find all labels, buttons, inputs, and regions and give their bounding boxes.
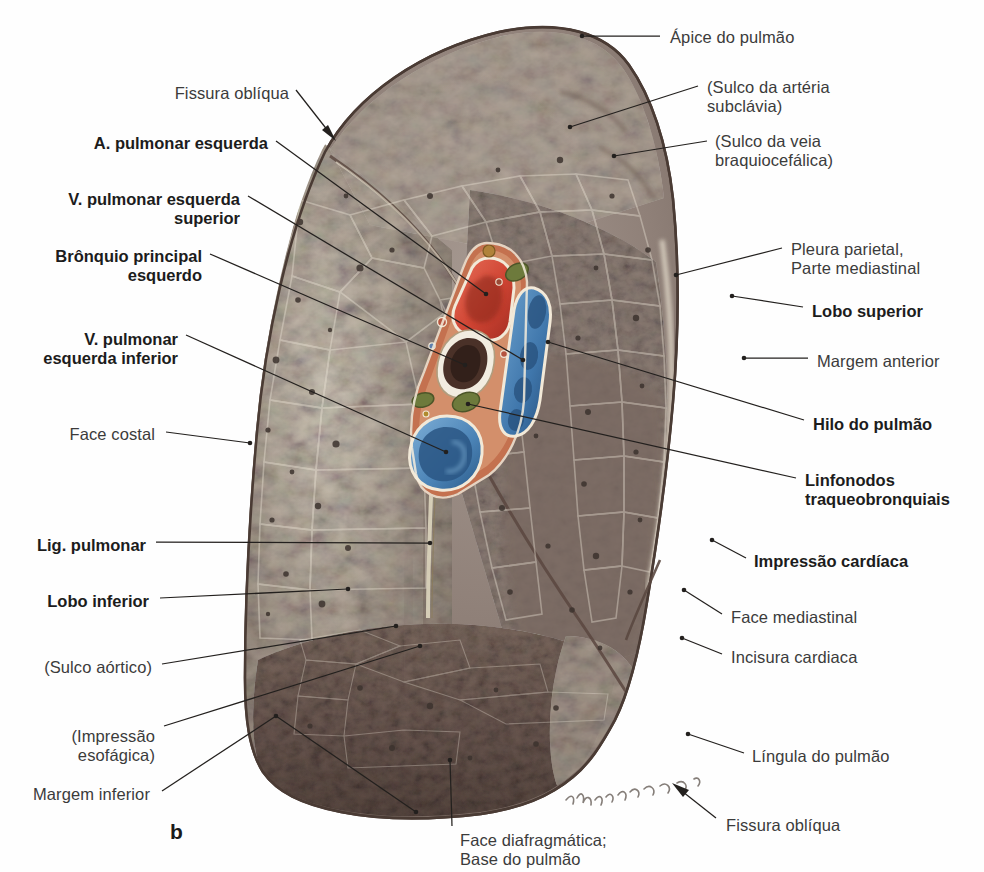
label-lig-pulmonar: Lig. pulmonar <box>0 536 146 555</box>
label-bronquio-principal-esquerdo: Brônquio principalesquerdo <box>0 247 202 286</box>
label-margem-inferior: Margem inferior <box>0 785 150 804</box>
lymph-node-apex <box>483 245 495 257</box>
label-fissura-obliqua-inf: Fissura oblíqua <box>726 816 840 835</box>
label-line: Linfonodos <box>805 471 950 490</box>
label-face-diafragmatica: Face diafragmática;Base do pulmão <box>460 831 607 870</box>
label-line: (Sulco da artéria <box>707 78 830 97</box>
label-line: Lobo inferior <box>0 592 149 611</box>
label-line: esquerda inferior <box>0 349 178 368</box>
artist-signature <box>566 778 700 805</box>
label-line: Incisura cardiaca <box>731 648 857 667</box>
label-line: (Sulco da veia <box>715 132 833 151</box>
label-lobo-superior: Lobo superior <box>812 302 923 321</box>
label-line: Face diafragmática; <box>460 831 607 850</box>
label-line: Face costal <box>0 425 155 444</box>
label-line: (Impressão <box>0 727 155 746</box>
label-lobo-inferior: Lobo inferior <box>0 592 149 611</box>
label-hilo-do-pulmao: Hilo do pulmão <box>813 415 932 434</box>
label-line: traqueobronquiais <box>805 490 950 509</box>
label-sulco-aortico: (Sulco aórtico) <box>0 658 152 677</box>
label-line: esofágica) <box>0 746 155 765</box>
label-line: Fissura oblíqua <box>0 84 289 103</box>
anatomy-figure: Fissura oblíquaA. pulmonar esquerdaV. pu… <box>0 0 984 872</box>
label-line: Pleura parietal, <box>791 240 920 259</box>
label-line: Lig. pulmonar <box>0 536 146 555</box>
label-line: subclávia) <box>707 97 830 116</box>
label-line: (Sulco aórtico) <box>0 658 152 677</box>
label-v-pulmonar-esq-superior: V. pulmonar esquerdasuperior <box>0 190 240 229</box>
label-impressao-cardiaca: Impressão cardíaca <box>754 552 908 571</box>
label-line: Margem inferior <box>0 785 150 804</box>
label-a-pulmonar-esquerda: A. pulmonar esquerda <box>0 134 268 153</box>
label-line: V. pulmonar esquerda <box>0 190 240 209</box>
label-face-costal: Face costal <box>0 425 155 444</box>
label-lingula-do-pulmao: Língula do pulmão <box>752 747 889 766</box>
label-line: Brônquio principal <box>0 247 202 266</box>
label-line: Ápice do pulmão <box>670 28 794 47</box>
label-sulco-arteria-subclavia: (Sulco da artériasubclávia) <box>707 78 830 117</box>
panel-letter: b <box>170 820 183 844</box>
label-impressao-esofagica: (Impressãoesofágica) <box>0 727 155 766</box>
label-sulco-veia-braquiocefalica: (Sulco da veiabraquiocefálica) <box>715 132 833 171</box>
label-linfonodos-traqueobronquiais: Linfonodostraqueobronquiais <box>805 471 950 510</box>
label-line: Fissura oblíqua <box>726 816 840 835</box>
label-line: esquerdo <box>0 266 202 285</box>
label-line: Hilo do pulmão <box>813 415 932 434</box>
label-line: Parte mediastinal <box>791 259 920 278</box>
label-line: Base do pulmão <box>460 850 607 869</box>
label-line: Margem anterior <box>817 352 940 371</box>
label-pleura-parietal-mediastinal: Pleura parietal,Parte mediastinal <box>791 240 920 279</box>
label-line: A. pulmonar esquerda <box>0 134 268 153</box>
label-apice-do-pulmao: Ápice do pulmão <box>670 28 794 47</box>
label-line: braquiocefálica) <box>715 151 833 170</box>
label-line: Impressão cardíaca <box>754 552 908 571</box>
label-v-pulmonar-esq-inferior: V. pulmonaresquerda inferior <box>0 330 178 369</box>
label-line: Lobo superior <box>812 302 923 321</box>
label-incisura-cardiaca: Incisura cardiaca <box>731 648 857 667</box>
label-line: V. pulmonar <box>0 330 178 349</box>
label-margem-anterior: Margem anterior <box>817 352 940 371</box>
label-fissura-obliqua-sup: Fissura oblíqua <box>0 84 289 103</box>
label-line: Língula do pulmão <box>752 747 889 766</box>
label-line: Face mediastinal <box>731 608 857 627</box>
label-line: superior <box>0 209 240 228</box>
label-face-mediastinal: Face mediastinal <box>731 608 857 627</box>
